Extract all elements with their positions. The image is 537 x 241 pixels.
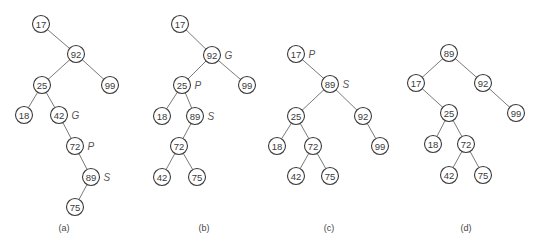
tree-node-99: 99: [102, 77, 119, 94]
tree-edge-92-99: [367, 123, 376, 138]
tree-edge-89-72: [183, 124, 191, 139]
tree-edge-72-42: [453, 151, 462, 167]
node-key: 99: [242, 80, 253, 91]
node-role-label: S: [208, 111, 215, 122]
node-role-label: P: [195, 80, 202, 91]
node-key: 99: [511, 108, 522, 119]
tree-edge-42-72: [63, 123, 71, 139]
node-key: 25: [37, 80, 48, 91]
tree-node-25: 25: [34, 77, 51, 94]
tree-edge-89-75: [79, 185, 87, 200]
node-key: 92: [358, 111, 369, 122]
tree-edge-25-18: [282, 123, 292, 139]
tree-node-89: 89S: [187, 108, 215, 125]
node-key: 72: [174, 141, 185, 152]
tree-node-99: 99: [372, 138, 389, 155]
tree-edge-25-72: [300, 123, 309, 138]
tree-edge-25-18: [28, 92, 37, 107]
tree-edge-72-75: [183, 153, 192, 169]
tree-node-42: 42: [154, 169, 171, 186]
tree-edge-17-89: [302, 60, 323, 79]
tree-edge-25-89: [185, 93, 191, 108]
panel-caption: (b): [199, 223, 210, 233]
panel-caption: (c): [324, 223, 335, 233]
node-key: 72: [70, 141, 81, 152]
node-key: 75: [478, 170, 489, 181]
node-role-label: P: [88, 141, 95, 152]
tree-node-99: 99: [508, 105, 525, 122]
tree-edge-92-25: [48, 60, 69, 80]
tree-node-92: 92: [355, 108, 372, 125]
node-key: 25: [291, 111, 302, 122]
node-key: 89: [444, 48, 455, 59]
tree-panel-b: 1792G25P991889S724275 (b): [154, 16, 256, 234]
tree-node-75: 75: [322, 168, 339, 185]
node-key: 18: [272, 141, 283, 152]
node-key: 17: [175, 19, 186, 30]
tree-edge-25-18: [437, 121, 445, 137]
tree-edge-25-42: [46, 92, 55, 107]
node-role-label: P: [309, 49, 316, 60]
node-role-label: G: [72, 110, 80, 121]
tree-panel-a: 179225991842G72P89S75 (a): [16, 16, 119, 234]
node-key: 92: [71, 49, 82, 60]
tree-node-25: 25: [288, 108, 305, 125]
tree-node-72: 72: [458, 136, 475, 153]
tree-edge-89-92: [455, 59, 476, 78]
node-key: 75: [70, 202, 81, 213]
node-key: 72: [461, 139, 472, 150]
panel-caption: (a): [59, 223, 70, 233]
node-key: 18: [19, 110, 30, 121]
node-key: 42: [157, 172, 168, 183]
tree-edge-72-75: [470, 151, 479, 167]
node-key: 17: [291, 49, 302, 60]
node-key: 89: [190, 111, 201, 122]
node-key: 75: [192, 172, 203, 183]
tree-nodes: 1792G25P991889S724275: [154, 16, 256, 186]
tree-panel-c: 17P89S25921872994275 (c): [269, 46, 389, 234]
splay-tree-diagram: 179225991842G72P89S75 (a) 1792G25P991889…: [0, 0, 537, 241]
node-key: 92: [207, 50, 218, 61]
tree-node-75: 75: [475, 167, 492, 184]
tree-node-42: 42: [288, 168, 305, 185]
tree-node-18: 18: [154, 108, 171, 125]
tree-edge-72-42: [300, 153, 309, 168]
tree-edge-72-89: [79, 154, 87, 170]
node-key: 42: [291, 171, 302, 182]
tree-node-89: 89S: [83, 169, 111, 186]
tree-node-72: 72: [171, 138, 188, 155]
tree-node-17: 17P: [288, 46, 316, 63]
panel-caption: (d): [461, 223, 472, 233]
node-key: 92: [478, 78, 489, 89]
node-key: 42: [54, 110, 65, 121]
tree-edge-17-92: [186, 30, 206, 49]
node-role-label: G: [225, 50, 233, 61]
tree-node-92: 92: [68, 46, 85, 63]
tree-edge-89-17: [422, 59, 442, 78]
node-key: 18: [157, 111, 168, 122]
node-key: 17: [411, 78, 422, 89]
tree-node-75: 75: [189, 169, 206, 186]
tree-node-89: 89S: [322, 76, 350, 93]
tree-edge-89-92: [336, 90, 357, 110]
tree-edge-25-18: [167, 92, 178, 109]
node-key: 75: [325, 171, 336, 182]
tree-node-72: 72P: [67, 138, 95, 155]
node-key: 89: [325, 79, 336, 90]
tree-node-72: 72: [305, 138, 322, 155]
tree-node-17: 17: [172, 16, 189, 33]
node-key: 72: [308, 141, 319, 152]
tree-node-42: 42: [441, 167, 458, 184]
tree-edge-17-25: [422, 89, 442, 108]
node-key: 89: [86, 172, 97, 183]
tree-node-99: 99: [239, 77, 256, 94]
tree-node-92: 92: [475, 75, 492, 92]
tree-edge-25-72: [453, 120, 462, 136]
tree-node-92: 92G: [204, 47, 233, 64]
node-role-label: S: [343, 79, 350, 90]
tree-edge-92-99: [218, 61, 240, 80]
tree-node-18: 18: [425, 136, 442, 153]
tree-node-25: 25P: [174, 77, 202, 94]
tree-edge-92-99: [489, 89, 509, 108]
tree-node-18: 18: [269, 138, 286, 155]
